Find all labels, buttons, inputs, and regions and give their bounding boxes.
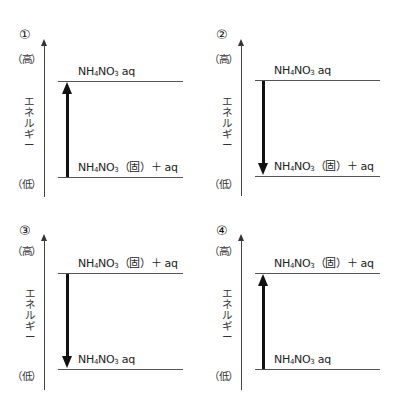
high-label: （高） xyxy=(12,245,41,257)
energy-axis xyxy=(241,45,242,196)
high-label: （高） xyxy=(209,245,238,257)
energy-axis-label: エ ネ ル ギ ー xyxy=(221,288,233,343)
energy-diagram-4: ④ （高） （低） エ ネ ル ギ ー NH4NO3（固）＋ aq NH4NO3… xyxy=(197,196,397,396)
high-label: （高） xyxy=(12,53,41,65)
energy-diagram-2: ② （高） （低） エ ネ ル ギ ー NH4NO3 aq NH4NO3（固）＋… xyxy=(197,0,397,200)
bottom-energy-level xyxy=(58,177,183,178)
top-energy-level xyxy=(58,273,183,274)
bottom-level-label: NH4NO3 aq xyxy=(274,354,331,366)
arrow-down-icon xyxy=(62,356,72,368)
energy-diagram-1: ① （高） （低） エ ネ ル ギ ー NH4NO3 aq NH4NO3（固）＋… xyxy=(0,0,200,200)
top-energy-level xyxy=(255,273,380,274)
bottom-energy-level xyxy=(58,369,183,370)
bottom-level-label: NH4NO3（固）＋ aq xyxy=(78,162,178,174)
energy-diagram-3: ③ （高） （低） エ ネ ル ギ ー NH4NO3（固）＋ aq NH4NO3… xyxy=(0,196,200,396)
arrow-shaft xyxy=(262,81,265,164)
low-label: （低） xyxy=(209,178,238,190)
arrow-shaft xyxy=(66,274,69,357)
arrow-down-icon xyxy=(258,163,268,175)
low-label: （低） xyxy=(209,370,238,382)
energy-axis xyxy=(241,240,242,390)
high-label: （高） xyxy=(209,53,238,65)
energy-axis-label: エ ネ ル ギ ー xyxy=(23,96,35,151)
panel-number: ④ xyxy=(216,224,228,237)
bottom-level-label: NH4NO3（固）＋ aq xyxy=(274,161,374,173)
panel-number: ③ xyxy=(19,224,31,237)
panel-number: ① xyxy=(19,28,31,41)
bottom-energy-level xyxy=(255,369,380,370)
top-energy-level xyxy=(255,80,380,81)
energy-axis-label: エ ネ ル ギ ー xyxy=(221,96,233,151)
energy-axis-label: エ ネ ル ギ ー xyxy=(24,288,36,343)
bottom-level-label: NH4NO3 aq xyxy=(78,354,135,366)
top-level-label: NH4NO3（固）＋ aq xyxy=(78,258,178,270)
energy-axis xyxy=(44,240,45,390)
top-energy-level xyxy=(58,81,183,82)
arrow-shaft xyxy=(262,285,265,369)
top-level-label: NH4NO3 aq xyxy=(274,65,331,77)
panel-number: ② xyxy=(216,28,228,41)
top-level-label: NH4NO3（固）＋ aq xyxy=(274,258,374,270)
low-label: （低） xyxy=(12,370,41,382)
top-level-label: NH4NO3 aq xyxy=(78,66,135,78)
bottom-energy-level xyxy=(255,176,380,177)
low-label: （低） xyxy=(12,178,41,190)
arrow-shaft xyxy=(66,93,69,177)
energy-axis xyxy=(44,45,45,197)
